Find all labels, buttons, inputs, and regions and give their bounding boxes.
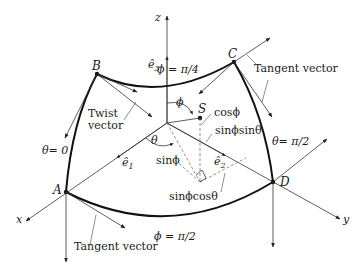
sin-sin-leader [206, 134, 212, 142]
phi-angle-label: ϕ [176, 96, 184, 109]
y-axis-label: y [342, 213, 350, 226]
radius-to-S [167, 118, 200, 123]
phi-pi-2-label: ϕ = π/2 [154, 230, 196, 243]
theta-angle-label: θ [151, 134, 158, 147]
sin-phi-label: sinϕ [156, 154, 180, 167]
tangent-vector-top-label: Tangent vector [254, 62, 339, 75]
tangent-top-leader-2 [262, 80, 268, 102]
sin-phi-sin-theta-label: sinϕsinθ [215, 124, 262, 137]
twist-leader [124, 102, 136, 120]
theta-angle-arc [146, 138, 172, 146]
e2-label: ê2 [214, 155, 226, 170]
theta-pi-2-label: θ= π/2 [272, 135, 309, 148]
label-D: D [279, 175, 290, 189]
right-angle-marker [196, 170, 206, 182]
label-S: S [198, 102, 206, 116]
twist-vector-label-line2: vector [87, 119, 124, 132]
tangent-vector-bottom-label: Tangent vector [74, 240, 159, 253]
theta-0-label: θ= 0 [42, 144, 68, 157]
label-C: C [228, 47, 237, 61]
tangent-vector-C-out [234, 38, 270, 62]
z-axis-label: z [154, 11, 161, 24]
curve-theta-pi-2 [234, 62, 273, 182]
curve-theta-0 [66, 74, 97, 192]
y-axis [167, 123, 340, 219]
sin-phi-cos-theta-label: sinϕcosθ [169, 190, 218, 203]
label-B: B [91, 59, 101, 73]
label-A: A [52, 183, 62, 197]
x-axis-label: x [16, 213, 23, 226]
sin-cos-leader [221, 173, 225, 192]
tangent-vector-C-in [199, 62, 234, 94]
e1-label: ê1 [122, 156, 134, 171]
x-axis [26, 123, 167, 221]
phi-pi-4-label: ϕ = π/4 [157, 63, 199, 76]
spherical-patch-diagram: z x y ê3 ê1 ê2 B C A D S ϕ = π/4 ϕ = π/2… [0, 0, 361, 276]
cos-phi-label: cosϕ [214, 106, 240, 119]
